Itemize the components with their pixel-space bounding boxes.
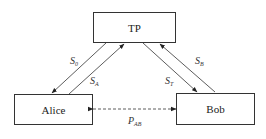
- edge-sa-label: SA: [90, 75, 99, 87]
- node-alice: Alice: [15, 95, 93, 125]
- node-alice-label: Alice: [42, 104, 66, 116]
- edge-st-label: ST: [165, 75, 174, 87]
- protocol-diagram: TP Alice Bob S0 SA ST SB PAB: [0, 0, 266, 139]
- edge-pab-label: PAB: [127, 115, 142, 127]
- node-tp: TP: [94, 13, 176, 43]
- edge-sb-label: SB: [195, 55, 204, 67]
- node-tp-label: TP: [128, 22, 141, 34]
- node-bob: Bob: [177, 94, 255, 125]
- edge-s0-label: S0: [70, 55, 78, 67]
- node-bob-label: Bob: [206, 103, 225, 115]
